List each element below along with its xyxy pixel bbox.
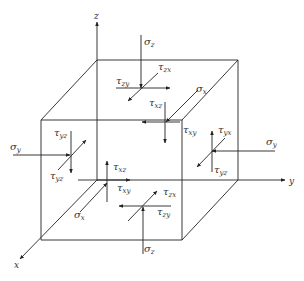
sigma-x-front-label: σx	[74, 209, 85, 222]
left-face-stresses: σy τyz τyz	[10, 127, 86, 183]
tau-zy-bottom-label: τzy	[157, 206, 171, 219]
edge	[182, 180, 238, 240]
stress-cube-diagram: z y x σz τzx τzy σx τxz τxy σy τyz τyz σ…	[0, 0, 304, 281]
sigma-y-left-label: σy	[10, 141, 22, 154]
edge	[182, 60, 238, 120]
tau-yz-left-top-label: τyz	[54, 127, 68, 140]
tau-xz-back-label: τxz	[149, 97, 162, 110]
right-face-stresses: σy τyx τyz	[197, 124, 278, 177]
tau-zy-top-label: τzy	[116, 75, 130, 88]
y-axis-label: y	[288, 176, 295, 186]
x-axis-label: x	[14, 260, 19, 270]
top-face-stresses: σz τzx τzy	[116, 35, 171, 101]
z-axis-label: z	[93, 11, 99, 21]
tau-yx-right-arrow	[197, 138, 225, 167]
tau-xy-front-label: τxy	[117, 182, 131, 195]
edge	[41, 60, 97, 120]
sigma-x-front-arrow	[80, 183, 107, 212]
sigma-z-top-label: σz	[144, 36, 155, 49]
front-face-stresses: τxz τxy σx	[74, 161, 131, 222]
tau-zx-bottom-label: τzx	[163, 186, 176, 199]
tau-xz-front-label: τxz	[113, 161, 126, 174]
tau-yz-left-bot-label: τyz	[50, 170, 64, 183]
tau-yx-right-label: τyx	[218, 124, 232, 137]
sigma-x-back-label: σx	[196, 83, 207, 96]
bottom-face-stresses: τzx τzy σz	[119, 186, 176, 256]
sigma-z-bottom-label: σz	[144, 243, 155, 256]
sigma-y-right-label: σy	[266, 136, 278, 149]
coordinate-axes: z y x	[14, 11, 295, 270]
tau-zx-top-label: τzx	[158, 61, 171, 74]
sigma-x-back-arrow	[166, 90, 198, 122]
tau-xy-back-label: τxy	[183, 124, 197, 137]
tau-yz-right-label: τyz	[214, 164, 228, 177]
x-axis	[20, 180, 97, 259]
back-face-stresses: σx τxz τxy	[142, 83, 207, 143]
